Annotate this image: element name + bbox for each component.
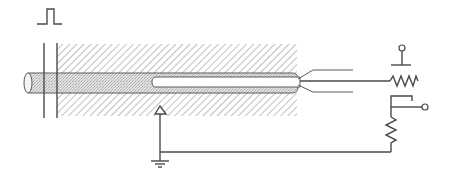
probe-cylinder <box>24 73 150 93</box>
inner-rod <box>152 77 300 87</box>
fanout-leads <box>298 70 390 92</box>
terminal-top <box>391 45 411 65</box>
ground-icon <box>151 161 169 167</box>
schematic-diagram <box>0 0 450 183</box>
resistor-top <box>390 76 418 86</box>
pulse-icon <box>37 9 62 24</box>
arrow-up-icon <box>155 106 166 161</box>
potentiometer <box>386 96 428 152</box>
